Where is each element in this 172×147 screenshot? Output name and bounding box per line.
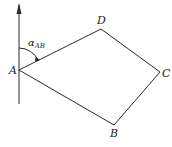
azimuth-arc [19, 48, 40, 62]
north-arrow [17, 3, 22, 104]
vertex-label-B: B [109, 127, 118, 140]
vertex-label-D: D [96, 14, 106, 27]
angle-label: αAB [28, 37, 45, 50]
edge-AD [19, 29, 101, 70]
edge-BA [19, 70, 114, 125]
quadrilateral-diagram: αAB A D C B [0, 0, 172, 147]
edge-DC [101, 29, 160, 72]
arrowhead-icon [17, 3, 22, 14]
vertex-label-C: C [162, 67, 171, 80]
edge-CB [114, 72, 160, 125]
vertex-label-A: A [8, 64, 17, 77]
